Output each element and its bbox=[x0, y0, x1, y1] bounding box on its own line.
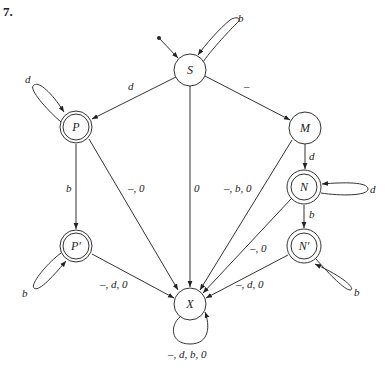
state-label: M bbox=[299, 121, 311, 135]
problem-number: 7. bbox=[3, 4, 13, 19]
state-S: S bbox=[174, 54, 206, 86]
edge-S-M: – bbox=[205, 76, 290, 120]
state-N-prime: N′ bbox=[287, 229, 321, 263]
edge-Np-Np: b bbox=[315, 259, 360, 298]
edge-label: –, d, 0 bbox=[235, 278, 264, 290]
edge-label: b bbox=[309, 208, 315, 220]
edge-label: d bbox=[128, 80, 134, 92]
state-X: X bbox=[174, 288, 206, 320]
edge-label: –, d, 0 bbox=[99, 278, 128, 290]
edge-label: d bbox=[370, 183, 376, 195]
edge-label: d bbox=[309, 150, 315, 162]
edge-label: b bbox=[22, 287, 28, 299]
edge-P-P: d bbox=[25, 73, 64, 122]
edge-label: d bbox=[25, 73, 31, 85]
state-label: S bbox=[187, 63, 193, 77]
edge-label: b bbox=[66, 182, 72, 194]
state-M: M bbox=[289, 112, 321, 144]
state-P: P bbox=[60, 111, 92, 143]
edge-label: – bbox=[243, 80, 250, 92]
edge-label: 0 bbox=[194, 182, 200, 194]
edge-S-X: 0 bbox=[190, 86, 200, 287]
state-N: N bbox=[287, 170, 321, 204]
edge-label: b bbox=[238, 12, 244, 24]
edge-P-X: –, 0 bbox=[89, 139, 178, 290]
state-label: N bbox=[299, 180, 309, 194]
start-arrow bbox=[157, 36, 178, 58]
state-label: N′ bbox=[298, 239, 310, 253]
edge-P-Pp: b bbox=[66, 144, 76, 229]
edge-Pp-Pp: b bbox=[22, 253, 66, 299]
state-label: P bbox=[71, 120, 80, 134]
edge-N-N: d bbox=[321, 183, 376, 195]
edge-S-P: d bbox=[92, 77, 176, 119]
edge-S-S: b bbox=[198, 12, 244, 62]
edge-label: –, d, b, 0 bbox=[167, 348, 207, 360]
state-P-prime: P′ bbox=[60, 230, 92, 262]
edge-label: –, 0 bbox=[127, 182, 145, 194]
state-label: P′ bbox=[70, 239, 81, 253]
edge-label: b bbox=[354, 286, 360, 298]
edge-M-N: d bbox=[305, 144, 315, 169]
edge-Pp-X: –, d, 0 bbox=[92, 254, 174, 298]
edge-label: –, 0 bbox=[249, 242, 267, 254]
edge-M-X: –, b, 0 bbox=[200, 140, 292, 290]
edge-label: –, b, 0 bbox=[223, 182, 252, 194]
edge-N-Np: b bbox=[304, 205, 315, 228]
state-label: X bbox=[185, 297, 194, 311]
state-diagram: 7. b d – 0 d b –, 0 d bbox=[0, 0, 390, 371]
